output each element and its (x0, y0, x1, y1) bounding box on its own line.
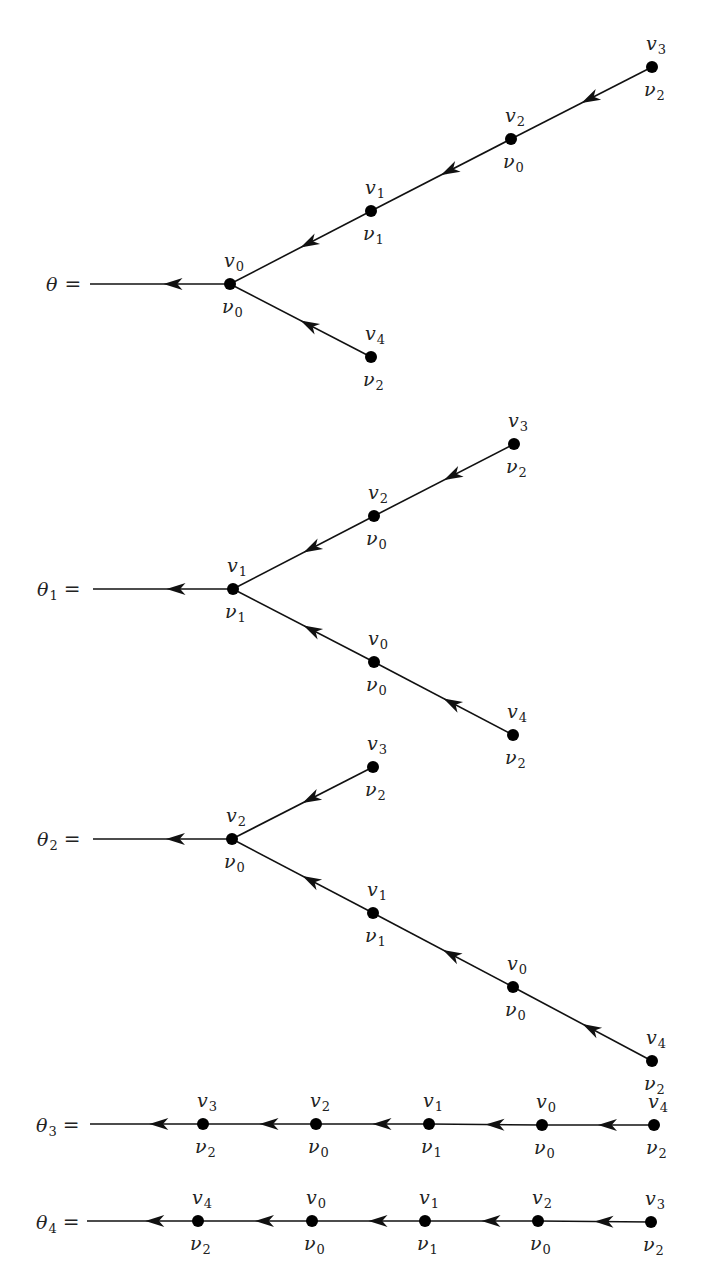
node-v1 (227, 583, 239, 595)
node-v3 (508, 438, 520, 450)
node-label-bottom-v0-symbol: ν (366, 673, 378, 695)
node-label-top-v3: v3 (367, 732, 387, 757)
node-label-bottom-v3: ν2 (365, 778, 386, 803)
arrowhead-icon (301, 233, 321, 247)
node-label-top-v4-symbol: v (646, 1026, 657, 1048)
node-label-bottom-v3: ν2 (195, 1135, 216, 1160)
node-label-top-v4-subscript: 4 (204, 1196, 212, 1211)
node-label-top-v1: v1 (365, 176, 385, 201)
equals-sign: = (64, 272, 81, 296)
node-label-top-v1-subscript: 1 (431, 1196, 439, 1211)
node-label-bottom-v4-subscript: 2 (518, 756, 526, 771)
node-label-top-v1-symbol: v (227, 554, 238, 576)
node-label-top-v0-subscript: 0 (380, 637, 388, 652)
theta-symbol: θ (36, 1114, 48, 1136)
arrowhead-icon (303, 876, 323, 890)
node-label-top-v0-subscript: 0 (519, 962, 527, 977)
node-label-bottom-v2: ν0 (530, 1232, 551, 1257)
node-label-bottom-v4-subscript: 2 (659, 1146, 667, 1161)
node-label-bottom-v2-subscript: 0 (321, 1145, 329, 1160)
arrowhead-icon (583, 1024, 603, 1038)
node-label-top-v4: v4 (648, 1090, 668, 1115)
node-label-top-v4: v4 (646, 1026, 666, 1051)
node-label-top-v0: v0 (224, 249, 244, 274)
node-label-bottom-v1: ν1 (365, 924, 386, 949)
theta-symbol: θ (37, 578, 49, 600)
theta-subscript: 4 (48, 1221, 56, 1236)
node-label-bottom-v1: ν1 (363, 222, 384, 247)
node-label-bottom-v2: ν0 (366, 527, 387, 552)
node-label-bottom-v2-subscript: 0 (516, 160, 524, 175)
node-label-top-v2-symbol: v (368, 481, 379, 503)
tree-label-theta-2: θ2= (37, 827, 81, 853)
node-label-bottom-v3-subscript: 2 (378, 788, 386, 803)
node-label-bottom-v0: ν0 (222, 295, 243, 320)
node-label-bottom-v1: ν1 (421, 1135, 442, 1160)
node-label-bottom-v2-symbol: ν (308, 1135, 320, 1157)
node-label-bottom-v0-symbol: ν (304, 1232, 316, 1254)
node-label-top-v0: v0 (507, 952, 527, 977)
node-v1 (365, 205, 377, 217)
node-label-top-v3-subscript: 3 (657, 1197, 665, 1212)
node-label-top-v3-subscript: 3 (658, 42, 666, 57)
theta-symbol: θ (46, 273, 58, 295)
node-label-top-v2-subscript: 2 (517, 114, 525, 129)
node-v3 (646, 61, 658, 73)
node-label-top-v3: v3 (646, 32, 666, 57)
node-label-top-v0-subscript: 0 (548, 1100, 556, 1115)
node-label-top-v1: v1 (423, 1089, 443, 1114)
node-v3 (197, 1118, 209, 1130)
node-label-top-v4-symbol: v (507, 700, 518, 722)
node-label-top-v3-symbol: v (646, 32, 657, 54)
tree-diagram-figure: θ=v0ν0v1ν1v2ν0v3ν2v4ν2θ1=v1ν1v2ν0v3ν2v0ν… (0, 0, 705, 1284)
node-label-top-v1-symbol: v (419, 1186, 430, 1208)
node-label-bottom-v2-subscript: 0 (543, 1242, 551, 1257)
equals-sign: = (64, 827, 81, 851)
node-v0 (306, 1215, 318, 1227)
tree-theta-2: θ2=v2ν0v3ν2v1ν1v0ν0v4ν2 (37, 732, 666, 1097)
node-label-bottom-v1-subscript: 1 (238, 610, 246, 625)
node-label-top-v3-subscript: 3 (379, 742, 387, 757)
node-label-bottom-v3-subscript: 2 (657, 88, 665, 103)
node-label-bottom-v0-subscript: 0 (547, 1146, 555, 1161)
node-label-top-v3: v3 (197, 1089, 217, 1114)
node-label-bottom-v1-symbol: ν (363, 222, 375, 244)
node-label-bottom-v3-symbol: ν (643, 1233, 655, 1255)
node-label-top-v2-subscript: 2 (380, 491, 388, 506)
node-label-top-v4-subscript: 4 (519, 710, 527, 725)
node-label-bottom-v0-subscript: 0 (379, 683, 387, 698)
node-label-bottom-v3-symbol: ν (506, 455, 518, 477)
arrowhead-icon (443, 950, 463, 964)
node-v4 (507, 729, 519, 741)
node-label-bottom-v0: ν0 (534, 1136, 555, 1161)
tree-label-theta-3: θ3= (36, 1113, 80, 1139)
node-label-top-v2-symbol: v (310, 1089, 321, 1111)
node-label-top-v1-symbol: v (365, 176, 376, 198)
node-label-bottom-v4: ν2 (646, 1136, 667, 1161)
node-label-bottom-v4-symbol: ν (363, 368, 375, 390)
node-v4 (648, 1119, 660, 1131)
node-label-bottom-v2-symbol: ν (530, 1232, 542, 1254)
theta-symbol: θ (36, 1211, 48, 1233)
node-label-top-v3-symbol: v (645, 1187, 656, 1209)
arrowhead-icon (582, 89, 602, 103)
tree-label-theta-1: θ1= (37, 577, 81, 603)
node-label-top-v0: v0 (306, 1186, 326, 1211)
arrowhead-icon (303, 789, 323, 803)
node-label-bottom-v1-symbol: ν (225, 600, 237, 622)
node-label-bottom-v4-subscript: 2 (203, 1242, 211, 1257)
node-label-bottom-v4-symbol: ν (505, 746, 517, 768)
node-label-top-v0: v0 (368, 627, 388, 652)
node-v0 (368, 656, 380, 668)
node-label-top-v0-symbol: v (306, 1186, 317, 1208)
theta-symbol: θ (37, 828, 49, 850)
node-label-bottom-v2: ν0 (224, 850, 245, 875)
node-label-top-v0-symbol: v (224, 249, 235, 271)
node-label-top-v2: v2 (368, 481, 388, 506)
node-label-top-v3: v3 (645, 1187, 665, 1212)
tree-theta-4: θ4=v4ν2v0ν0v1ν1v2ν0v3ν2 (36, 1186, 665, 1258)
node-label-top-v4-symbol: v (365, 322, 376, 344)
node-label-bottom-v3-subscript: 2 (519, 465, 527, 480)
arrowhead-icon (444, 699, 464, 713)
node-label-bottom-v4: ν2 (190, 1232, 211, 1257)
